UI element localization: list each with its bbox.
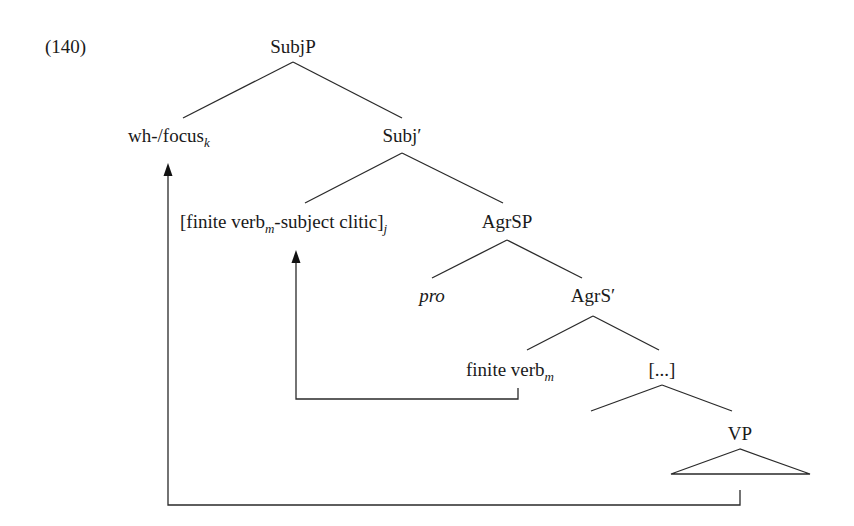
edge-ellipsis-vp <box>662 385 732 411</box>
syntax-tree-diagram: (140) SubjP wh-/focusk Subj′ [finite ver… <box>0 0 854 526</box>
edge-agrsbar-ellipsis <box>593 316 659 350</box>
edge-subjbar-clitic <box>305 153 402 203</box>
node-wh-focus: wh-/focusk <box>128 125 210 150</box>
finite-clitic-open: [finite verb <box>180 211 265 232</box>
node-ellipsis: [...] <box>649 359 676 380</box>
node-agrsp: AgrSP <box>482 211 533 232</box>
node-finite-verb: finite verbm <box>466 359 554 384</box>
node-finite-verb-clitic: [finite verbm-subject clitic]j <box>180 211 388 236</box>
node-subjp: SubjP <box>270 36 315 57</box>
edge-subjp-subjbar <box>293 62 402 118</box>
finite-verb-subscript: m <box>545 369 554 384</box>
edge-agrsp-pro <box>432 240 507 278</box>
vp-triangle <box>671 449 810 474</box>
node-agrs-bar: AgrS′ <box>571 285 615 306</box>
arrowhead-up-icon <box>164 163 173 176</box>
wh-focus-subscript: k <box>204 135 210 150</box>
edge-subjp-whfocus <box>183 62 293 118</box>
wh-focus-label: wh-/focus <box>128 125 204 146</box>
edge-ellipsis-left <box>591 385 662 411</box>
edge-agrsp-agrsbar <box>507 240 582 278</box>
tree-edges <box>183 62 810 474</box>
node-pro: pro <box>417 285 445 306</box>
arrowhead-up-icon <box>292 250 301 263</box>
finite-clitic-mid: -subject clitic] <box>274 211 383 232</box>
node-subj-bar: Subj′ <box>382 125 421 146</box>
finite-verb-label: finite verb <box>466 359 545 380</box>
finite-clitic-sub-m: m <box>265 221 274 236</box>
node-vp: VP <box>728 423 752 444</box>
example-number: (140) <box>45 36 86 58</box>
edge-agrsbar-finiteverb <box>527 316 593 350</box>
edge-subjbar-agrsp <box>402 153 503 203</box>
